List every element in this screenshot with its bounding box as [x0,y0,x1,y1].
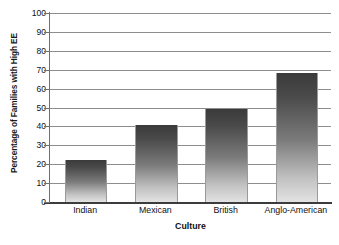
x-axis-tick-label: Indian [73,205,97,215]
y-axis-tick-mark [44,183,50,184]
scan-artifact-strip [0,236,339,245]
y-axis-tick-label: 70 [22,65,46,75]
y-axis-tick-mark [44,108,50,109]
y-axis-tick-mark [44,126,50,127]
bar [276,73,319,202]
y-axis-tick-label: 80 [22,46,46,56]
y-axis-tick-label: 100 [22,8,46,18]
x-axis-tick-labels: IndianMexicanBritishAnglo-American [50,205,331,221]
y-axis-tick-mark [44,13,50,14]
y-axis-tick-label: 40 [22,121,46,131]
x-axis-title: Culture [50,221,331,231]
y-axis-tick-label: 10 [22,178,46,188]
x-axis-tick-label: Anglo-American [265,205,328,215]
bar [135,125,178,202]
y-axis-tick-label: 30 [22,140,46,150]
y-axis-title: Percentage of Families with High EE [9,5,19,201]
y-axis-tick-labels: 0102030405060708090100 [22,7,46,203]
y-axis-tick-label: 60 [22,84,46,94]
x-axis-tick-label: British [213,205,237,215]
bar-series [50,13,331,202]
x-axis-line [44,202,332,204]
bar [65,160,108,202]
y-axis-tick-label: 90 [22,27,46,37]
y-axis-tick-mark [44,145,50,146]
y-axis-tick-mark [44,70,50,71]
bar-chart-figure: Percentage of Families with High EE 0102… [0,0,339,245]
y-axis-tick-mark [44,32,50,33]
y-axis-tick-mark [44,89,50,90]
y-axis-tick-label: 50 [22,103,46,113]
x-axis-tick-label: Mexican [139,205,172,215]
y-axis-tick-mark [44,202,50,203]
y-axis-tick-mark [44,164,50,165]
y-axis-tick-mark [44,51,50,52]
y-axis-tick-label: 0 [22,197,46,207]
y-axis-tick-label: 20 [22,159,46,169]
bar [205,109,248,202]
